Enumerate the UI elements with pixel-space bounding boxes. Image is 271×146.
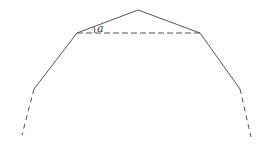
right-dashed-extension bbox=[240, 89, 251, 137]
left-dashed-extension bbox=[22, 89, 34, 135]
angle-label: a bbox=[97, 22, 104, 35]
angle-arc bbox=[94, 27, 95, 33]
polygon-arch-diagram: a bbox=[0, 0, 271, 146]
arch-solid-edges bbox=[34, 10, 240, 89]
